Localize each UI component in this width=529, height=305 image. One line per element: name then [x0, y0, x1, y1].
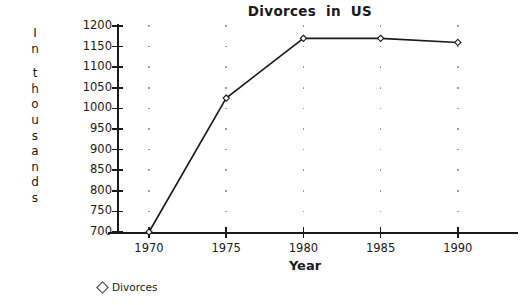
data-point-marker: [455, 39, 461, 45]
grid-dot: [148, 87, 150, 89]
grid-dot: [148, 149, 150, 151]
grid-dot: [225, 25, 227, 27]
legend-label-divorces: Divorces: [112, 282, 157, 292]
grid-dot: [457, 169, 459, 171]
x-tick-mark: [148, 227, 150, 238]
grid-dot: [225, 190, 227, 192]
grid-dot: [148, 190, 150, 192]
y-tick-mark: [112, 25, 123, 27]
y-tick-mark: [112, 108, 123, 110]
grid-dot: [303, 66, 305, 68]
x-tick-mark: [303, 227, 305, 238]
data-point-marker: [223, 95, 229, 101]
grid-dot: [380, 211, 382, 213]
grid-dot: [148, 66, 150, 68]
grid-dot: [225, 128, 227, 130]
grid-dot: [303, 128, 305, 130]
y-tick-label: 800: [66, 185, 112, 197]
x-tick-label: 1980: [273, 241, 333, 255]
x-tick-label: 1970: [119, 241, 179, 255]
grid-dot: [457, 190, 459, 192]
grid-dot: [380, 46, 382, 48]
grid-dot: [148, 108, 150, 110]
y-axis-label-char: n: [26, 160, 44, 176]
series-markers-divorces: [146, 35, 461, 235]
y-axis-label-char: d: [26, 175, 44, 191]
y-tick-mark: [112, 211, 123, 213]
grid-dot: [225, 87, 227, 89]
y-tick-mark: [112, 46, 123, 48]
grid-dot: [380, 87, 382, 89]
y-tick-mark: [112, 66, 123, 68]
data-point-marker: [378, 35, 384, 41]
grid-dot: [303, 87, 305, 89]
y-tick-label: 950: [66, 123, 112, 135]
grid-dot: [303, 211, 305, 213]
grid-dot: [457, 25, 459, 27]
grid-dot: [457, 149, 459, 151]
x-tick-mark: [380, 227, 382, 238]
grid-dot: [148, 46, 150, 48]
grid-dot: [225, 66, 227, 68]
y-axis-label-char: s: [26, 129, 44, 145]
y-axis-label-char: n: [26, 42, 44, 58]
grid-dot: [303, 169, 305, 171]
grid-dot: [148, 211, 150, 213]
chart-legend: Divorces: [98, 282, 157, 292]
grid-dot: [457, 66, 459, 68]
legend-marker-diamond-icon: [96, 281, 109, 294]
grid-dot: [225, 108, 227, 110]
chart-title: Divorces in US: [180, 3, 440, 19]
y-axis-label-char: a: [26, 144, 44, 160]
y-axis-label-char: u: [26, 113, 44, 129]
grid-dot: [457, 108, 459, 110]
x-tick-label: 1975: [196, 241, 256, 255]
x-tick-mark: [225, 227, 227, 238]
y-axis-label-char: s: [26, 191, 44, 207]
x-tick-mark: [457, 227, 459, 238]
grid-dot: [457, 128, 459, 130]
y-tick-mark: [112, 87, 123, 89]
y-tick-label: 1200: [66, 20, 112, 32]
y-tick-label: 1000: [66, 102, 112, 114]
y-tick-mark: [112, 169, 123, 171]
grid-dot: [380, 25, 382, 27]
grid-dot: [303, 149, 305, 151]
grid-dot: [303, 108, 305, 110]
grid-dot: [380, 149, 382, 151]
grid-dot: [303, 46, 305, 48]
y-axis-label: Inthousands: [26, 26, 44, 207]
grid-dot: [380, 66, 382, 68]
grid-dot: [225, 46, 227, 48]
grid-dot: [148, 128, 150, 130]
grid-dot: [457, 46, 459, 48]
grid-dot: [148, 25, 150, 27]
grid-dot: [457, 87, 459, 89]
grid-dot: [380, 128, 382, 130]
y-tick-label: 750: [66, 205, 112, 217]
grid-dot: [380, 190, 382, 192]
y-axis-label-char: I: [26, 26, 44, 42]
y-tick-mark: [112, 149, 123, 151]
y-tick-label: 1050: [66, 82, 112, 94]
x-axis-label: Year: [210, 258, 400, 273]
grid-dot: [303, 190, 305, 192]
y-tick-label: 900: [66, 144, 112, 156]
y-tick-mark: [112, 128, 123, 130]
y-axis-label-gap: [26, 57, 44, 66]
grid-dot: [225, 169, 227, 171]
data-point-marker: [300, 35, 306, 41]
y-tick-mark: [112, 231, 123, 233]
y-axis-label-char: o: [26, 97, 44, 113]
grid-dot: [380, 108, 382, 110]
grid-dot: [457, 211, 459, 213]
y-tick-label: 700: [66, 226, 112, 238]
y-axis-label-char: h: [26, 82, 44, 98]
grid-dot: [225, 149, 227, 151]
y-tick-label: 850: [66, 164, 112, 176]
grid-dot: [303, 25, 305, 27]
grid-dot: [148, 169, 150, 171]
y-tick-label: 1150: [66, 41, 112, 53]
x-tick-label: 1990: [428, 241, 488, 255]
y-axis-label-char: t: [26, 66, 44, 82]
